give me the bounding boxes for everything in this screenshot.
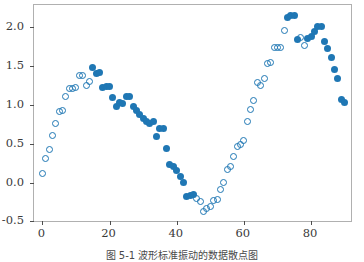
data-point xyxy=(267,59,274,66)
data-point xyxy=(86,78,93,85)
data-point xyxy=(334,75,341,82)
data-point xyxy=(318,23,325,30)
data-point xyxy=(163,145,170,152)
data-point xyxy=(240,137,247,144)
y-tick-mark xyxy=(30,66,34,67)
data-point xyxy=(52,120,59,127)
data-point xyxy=(291,12,298,19)
y-tick-mark xyxy=(30,27,34,28)
y-tick-mark xyxy=(30,105,34,106)
scatter-plot-figure: 020406080 -0.50.00.51.01.52.0 图 5-1 波形标准… xyxy=(0,0,364,262)
data-point xyxy=(261,75,268,82)
data-point xyxy=(160,125,167,132)
data-point xyxy=(321,38,328,45)
data-point xyxy=(324,45,331,52)
data-point xyxy=(301,42,308,49)
data-point xyxy=(217,186,224,193)
y-tick-label: 1.0 xyxy=(6,97,24,111)
y-tick-label: 2.0 xyxy=(6,19,24,33)
data-point xyxy=(62,93,69,100)
x-tick-label: 40 xyxy=(168,226,183,240)
data-point xyxy=(214,196,221,203)
y-tick-mark xyxy=(30,221,34,222)
data-point xyxy=(39,170,46,177)
data-point xyxy=(79,72,86,79)
data-point xyxy=(49,132,56,139)
y-tick-mark xyxy=(30,183,34,184)
data-point xyxy=(207,203,214,210)
data-point xyxy=(96,69,103,76)
figure-caption: 图 5-1 波形标准振动的数据散点图 xyxy=(0,247,364,262)
data-point xyxy=(59,107,66,114)
data-point xyxy=(227,163,234,170)
data-point xyxy=(106,83,113,90)
data-point xyxy=(153,133,160,140)
data-point xyxy=(257,82,264,89)
data-point xyxy=(247,106,254,113)
data-point xyxy=(328,54,335,61)
x-tick-label: 0 xyxy=(38,226,45,240)
x-tick-label: 60 xyxy=(236,226,251,240)
x-tick-mark xyxy=(42,221,43,225)
data-point xyxy=(119,100,126,107)
data-point xyxy=(72,84,79,91)
data-point xyxy=(250,97,257,104)
plot-frame xyxy=(33,4,352,222)
data-point xyxy=(46,146,53,153)
data-point xyxy=(277,44,284,51)
y-tick-mark xyxy=(30,144,34,145)
y-tick-label: 0.5 xyxy=(6,136,24,150)
data-point xyxy=(281,27,288,34)
y-tick-label: 1.5 xyxy=(6,58,24,72)
x-tick-mark xyxy=(311,221,312,225)
x-tick-label: 20 xyxy=(101,226,116,240)
data-point xyxy=(341,99,348,106)
data-point xyxy=(220,179,227,186)
y-tick-label: 0.0 xyxy=(6,175,24,189)
x-tick-mark xyxy=(110,221,111,225)
data-point xyxy=(180,179,187,186)
x-tick-mark xyxy=(244,221,245,225)
x-tick-label: 80 xyxy=(303,226,318,240)
data-point xyxy=(244,118,251,125)
data-point xyxy=(150,118,157,125)
data-point xyxy=(230,153,237,160)
y-tick-label: -0.5 xyxy=(2,213,24,227)
x-tick-mark xyxy=(177,221,178,225)
data-point xyxy=(331,66,338,73)
data-point xyxy=(42,155,49,162)
data-point xyxy=(197,198,204,205)
data-point xyxy=(126,93,133,100)
plot-data-area xyxy=(34,5,351,221)
